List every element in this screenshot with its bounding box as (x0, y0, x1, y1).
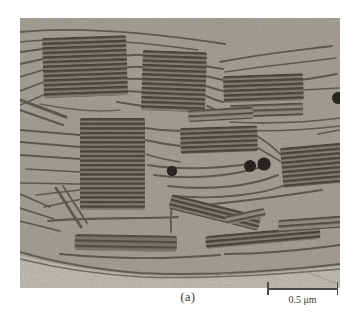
electron-micrograph (20, 18, 340, 288)
film-grain-light (20, 18, 340, 288)
scale-bar: 0.5 μm (267, 282, 338, 310)
micrograph-canvas (20, 18, 340, 288)
scale-bar-label: 0.5 μm (267, 294, 338, 305)
figure-panel: (a) 0.5 μm (0, 0, 353, 312)
panel-label: (a) (168, 290, 208, 305)
scale-bar-line (267, 288, 338, 290)
